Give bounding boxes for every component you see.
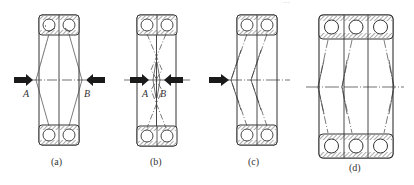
arrow-left-icon [86, 74, 105, 86]
caption-d: (d) [349, 162, 361, 173]
caption-a: (a) [51, 156, 62, 167]
caption-c: (c) [248, 156, 259, 167]
arrow-right-icon [130, 74, 149, 86]
caption-b: (b) [150, 156, 162, 167]
arrow-right-icon [209, 74, 229, 86]
panel-d [306, 15, 404, 158]
arrow-right-icon [14, 74, 33, 86]
cut-off-heading: … [283, 0, 291, 5]
panel-a [14, 15, 105, 145]
point-label-a-A: A [23, 88, 29, 99]
panel-c [209, 15, 290, 145]
point-label-b-B: B [160, 88, 166, 99]
point-label-a-B: B [84, 88, 90, 99]
panel-b [124, 15, 190, 146]
arrow-left-icon [164, 74, 183, 86]
point-label-b-A: A [142, 88, 148, 99]
